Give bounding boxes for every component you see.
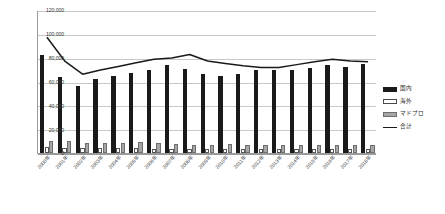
- chart-container: 020,00040,00060,00080,000100,000120,000 …: [0, 0, 445, 214]
- total-line-path: [47, 37, 368, 74]
- legend-item-国内[interactable]: 国内: [383, 84, 443, 94]
- y-axis-tick-label: 20,000: [28, 128, 64, 133]
- legend-swatch-icon: [383, 87, 397, 92]
- legend-swatch-icon: [383, 112, 397, 117]
- legend-label: マドプロ: [400, 111, 424, 117]
- y-axis-tick-label: 40,000: [28, 104, 64, 109]
- x-axis-ticks: 2000年2001年2002年2003年2004年2005年2006年2007年…: [37, 155, 376, 203]
- legend-label: 国内: [400, 86, 412, 92]
- legend-swatch-icon: [383, 99, 397, 104]
- y-axis-tick-label: 100,000: [28, 32, 64, 37]
- y-axis-tick-label: 120,000: [28, 8, 64, 13]
- plot-area: [37, 11, 376, 154]
- legend-item-合計[interactable]: 合計: [383, 122, 443, 132]
- legend-label: 合計: [400, 124, 412, 130]
- legend-item-海外[interactable]: 海外: [383, 97, 443, 107]
- chart-legend: 国内海外マドプロ合計: [383, 84, 443, 134]
- legend-swatch-icon: [383, 124, 397, 129]
- legend-label: 海外: [400, 99, 412, 105]
- y-axis-tick-label: 60,000: [28, 80, 64, 85]
- legend-item-マドプロ[interactable]: マドプロ: [383, 109, 443, 119]
- total-line-series: [38, 11, 377, 154]
- y-axis-tick-label: 80,000: [28, 56, 64, 61]
